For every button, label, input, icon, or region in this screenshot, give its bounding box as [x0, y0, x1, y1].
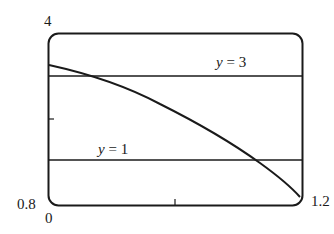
- x-min-label: 0: [45, 211, 53, 226]
- y-max-label: 4: [44, 14, 52, 29]
- chart-plot: [0, 0, 334, 234]
- annotation-y-1: y = 1: [98, 142, 128, 157]
- x-max-label: 1.2: [311, 194, 330, 209]
- annotation-y-3: y = 3: [216, 55, 246, 70]
- plot-frame: [49, 34, 303, 206]
- annotation-y-1-var: y: [98, 141, 105, 157]
- annotation-y-3-var: y: [216, 54, 223, 70]
- y-min-label: 0.8: [17, 197, 36, 212]
- annotation-y-3-rhs: = 3: [226, 54, 246, 70]
- annotation-y-1-rhs: = 1: [108, 141, 128, 157]
- function-curve: [49, 65, 300, 197]
